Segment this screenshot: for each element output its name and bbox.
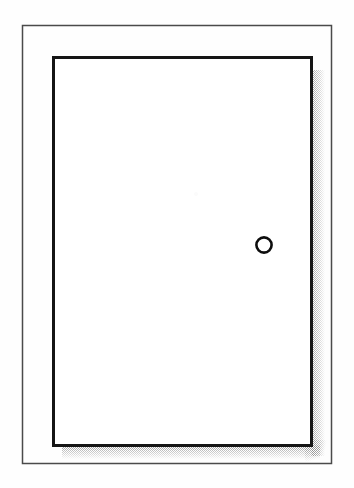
door-shadow-bottom xyxy=(62,445,320,459)
doorknob-icon[interactable] xyxy=(256,237,271,252)
scan-speck xyxy=(194,192,198,196)
door-drawing-canvas: Door Black-and-white line drawing of a r… xyxy=(0,0,354,488)
door-panel-outline xyxy=(54,58,312,446)
door-shadow-right xyxy=(311,70,325,456)
door-illustration xyxy=(0,0,354,488)
